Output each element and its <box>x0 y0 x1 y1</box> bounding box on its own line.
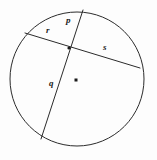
geometry-figure: p r s q <box>0 0 157 160</box>
geometry-canvas <box>0 0 157 160</box>
chord-r-s <box>25 33 140 68</box>
segment-label-r: r <box>46 26 50 35</box>
chord-intersection-point <box>67 46 70 49</box>
segment-label-p: p <box>66 16 71 25</box>
segment-label-q: q <box>49 79 54 88</box>
segment-label-s: s <box>103 43 107 52</box>
center-point-marker <box>75 79 78 82</box>
